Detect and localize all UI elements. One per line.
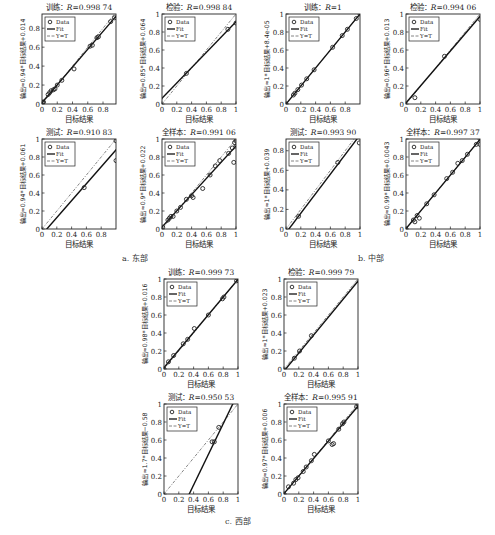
y-tick-label: 0.6	[273, 167, 285, 175]
x-tick-label: 0.4	[308, 496, 320, 504]
caption-c: c. 西部	[225, 515, 251, 526]
y-tick-label: 0.6	[151, 312, 163, 320]
x-tick-label: 0.4	[186, 231, 198, 239]
y-tick-label: 0.6	[149, 172, 161, 180]
x-tick-label: 0	[282, 496, 286, 504]
y-tick-label: 0.8	[29, 25, 40, 33]
panel-b-validation: 检验：R=0.994 0600.20.40.60.8100.20.40.60.8…	[368, 0, 488, 125]
x-axis-label: 目标结果	[307, 379, 336, 389]
panel-c-train: 训练：R=0.999 7300.20.40.60.8100.20.40.60.8…	[126, 265, 246, 390]
y-tick-label: 1	[400, 136, 404, 144]
y-tick-label: 0	[158, 366, 162, 374]
panel-a-test: 测试：R=0.910 8300.20.40.60.800.20.40.60.81…	[4, 125, 124, 250]
x-axis-label: 目标结果	[429, 239, 458, 249]
y-tick-label: 0.6	[29, 44, 41, 52]
data-point	[232, 160, 236, 164]
x-tick-label: 0	[162, 496, 166, 504]
y-tick-label: 0.6	[271, 312, 283, 320]
svg-text:Y=T: Y=T	[55, 33, 68, 39]
y-tick-label: 0.8	[393, 154, 404, 162]
y-tick-label: 1	[156, 11, 160, 19]
y-tick-label: 0.2	[149, 208, 160, 216]
y-tick-label: 0.2	[271, 348, 282, 356]
svg-text:Data: Data	[300, 144, 314, 150]
scatter-plot: 测试：R=0.950 5300.20.40.60.8100.20.40.60.8…	[126, 390, 246, 515]
data-point	[413, 96, 417, 100]
scatter-plot: 检验：R=0.999 7900.20.40.60.8100.20.40.60.8…	[246, 265, 366, 390]
x-axis-label: 目标结果	[65, 114, 94, 124]
x-tick-label: 0.2	[52, 106, 63, 114]
svg-text:Data: Data	[420, 19, 434, 25]
svg-text:Y=T: Y=T	[297, 423, 310, 429]
y-tick-label: 0.4	[271, 330, 283, 338]
x-tick-label: 0.6	[203, 496, 215, 504]
y-tick-label: 0.4	[149, 65, 161, 73]
y-tick-label: 0.2	[273, 206, 284, 214]
y-tick-label: 0.4	[393, 190, 405, 198]
y-tick-label: 0.4	[149, 190, 161, 198]
x-tick-label: 0.2	[51, 231, 62, 239]
y-axis-label: 输出≈0.98*目标结果+0.016	[141, 283, 149, 364]
panel-b-all: 全样本：R=0.997 3700.20.40.60.8100.20.40.60.…	[368, 125, 488, 250]
x-tick-label: 0	[284, 231, 288, 239]
y-tick-label: 0	[400, 101, 404, 109]
y-axis-label: 输出≈1*目标结果+8.4e-05	[263, 20, 271, 97]
scatter-plot: 全样本：R=0.991 0600.20.40.60.8100.20.40.60.…	[124, 125, 244, 250]
legend: DataFitY=T	[45, 142, 75, 166]
y-tick-label: 0.4	[273, 186, 285, 194]
data-point	[192, 327, 196, 331]
svg-text:Fit: Fit	[178, 291, 187, 297]
x-tick-label: 0.2	[173, 496, 184, 504]
svg-text:Y=T: Y=T	[175, 158, 188, 164]
svg-text:Y=T: Y=T	[175, 33, 188, 39]
y-tick-label: 1	[36, 136, 40, 144]
y-tick-label: 0.4	[393, 65, 405, 73]
y-tick-label: 0.8	[271, 294, 282, 302]
y-tick-label: 0.2	[151, 348, 162, 356]
data-point	[456, 161, 460, 165]
caption-a: a. 东部	[122, 252, 148, 263]
y-tick-label: 0.6	[29, 172, 41, 180]
x-tick-label: 1	[236, 496, 240, 504]
legend: DataFitY=T	[165, 17, 195, 41]
x-tick-label: 0.4	[430, 231, 442, 239]
x-tick-label: 0	[284, 106, 288, 114]
legend: DataFitY=T	[165, 142, 195, 166]
caption-b: b. 中部	[358, 252, 384, 263]
legend: DataFitY=T	[45, 17, 75, 41]
chart-title: 测试：R=0.950 53	[168, 392, 235, 402]
panel-b-test: 测试：R=0.993 9000.20.40.60.8100.20.40.60.8…	[248, 125, 368, 250]
y-tick-label: 0	[158, 491, 162, 499]
x-tick-label: 0.6	[81, 231, 93, 239]
y-tick-label: 0.4	[151, 455, 163, 463]
x-tick-label: 0.8	[340, 106, 351, 114]
x-tick-label: 1	[356, 371, 360, 379]
x-tick-label: 0.8	[218, 496, 229, 504]
legend: DataFitY=T	[289, 142, 319, 166]
legend: DataFitY=T	[289, 17, 319, 41]
x-axis-label: 目标结果	[65, 239, 94, 249]
panel-a-train: 训练：R=0.998 7400.20.40.60.800.20.40.60.8目…	[4, 0, 124, 125]
y-tick-label: 0.4	[151, 330, 163, 338]
x-tick-label: 0	[40, 106, 44, 114]
y-tick-label: 1	[158, 276, 162, 284]
svg-text:Y=T: Y=T	[297, 298, 310, 304]
x-axis-label: 目标结果	[429, 114, 458, 124]
y-axis-label: 输出≈1*目标结果+0.023	[261, 288, 269, 359]
panel-c-test: 测试：R=0.950 5300.20.40.60.8100.20.40.60.8…	[126, 390, 246, 515]
x-tick-label: 0.8	[97, 106, 108, 114]
data-point	[417, 216, 421, 220]
panel-c-all: 全样本：R=0.995 9100.20.40.60.8100.20.40.60.…	[246, 390, 366, 515]
data-point	[201, 187, 205, 191]
x-tick-label: 0	[162, 371, 166, 379]
scatter-plot: 测试：R=0.910 8300.20.40.60.800.20.40.60.81…	[4, 125, 124, 250]
svg-text:Fit: Fit	[176, 151, 185, 157]
svg-text:Data: Data	[178, 284, 192, 290]
y-tick-label: 0	[280, 226, 284, 234]
scatter-plot: 检验：R=0.994 0600.20.40.60.8100.20.40.60.8…	[368, 0, 488, 125]
panel-c-validation: 检验：R=0.999 7900.20.40.60.8100.20.40.60.8…	[246, 265, 366, 390]
x-tick-label: 0.4	[308, 371, 320, 379]
y-tick-label: 0.6	[151, 437, 163, 445]
x-tick-label: 0	[160, 231, 164, 239]
x-tick-label: 0.6	[201, 106, 213, 114]
